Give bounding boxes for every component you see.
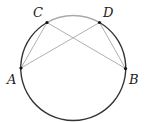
label-c: C xyxy=(33,5,43,20)
point-c xyxy=(45,21,48,24)
segment-cb xyxy=(47,23,126,69)
point-a xyxy=(19,66,22,69)
label-a: A xyxy=(6,72,16,87)
point-d xyxy=(98,21,101,24)
point-b xyxy=(124,67,127,70)
label-b: B xyxy=(128,72,139,87)
segment-ac xyxy=(21,23,47,69)
circle-arc-cd xyxy=(47,15,100,22)
segment-db xyxy=(100,23,126,69)
label-d: D xyxy=(102,5,114,20)
circle-diagram: A B C D xyxy=(0,0,146,122)
segment-ad xyxy=(21,23,100,69)
